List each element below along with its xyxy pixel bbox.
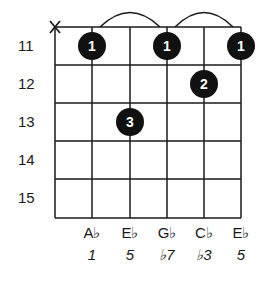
interval-label: ♭7 <box>152 246 182 264</box>
interval-label: 1 <box>77 246 107 263</box>
svg-text:2: 2 <box>200 76 208 92</box>
fret-number: 11 <box>18 37 42 54</box>
fret-number: 14 <box>18 151 42 168</box>
fret-number: 13 <box>18 113 42 130</box>
note-label: C♭ <box>189 224 219 242</box>
note-label: E♭ <box>115 224 145 242</box>
note-label: E♭ <box>226 224 256 242</box>
fret-number: 12 <box>18 75 42 92</box>
fret-number: 15 <box>18 189 42 206</box>
svg-text:3: 3 <box>126 114 134 130</box>
chord-diagram: 1 1 1 2 3 11 12 13 14 15 A♭ E♭ G♭ C♭ E♭ … <box>0 0 269 283</box>
tie-arc <box>100 13 160 28</box>
interval-label: 5 <box>115 246 145 263</box>
tie-arc <box>175 13 233 28</box>
interval-label: ♭3 <box>189 246 219 264</box>
svg-text:1: 1 <box>237 38 245 54</box>
note-label: G♭ <box>152 224 182 242</box>
interval-label: 5 <box>226 246 256 263</box>
note-label: A♭ <box>77 224 107 242</box>
svg-text:1: 1 <box>88 38 96 54</box>
svg-text:1: 1 <box>163 38 171 54</box>
